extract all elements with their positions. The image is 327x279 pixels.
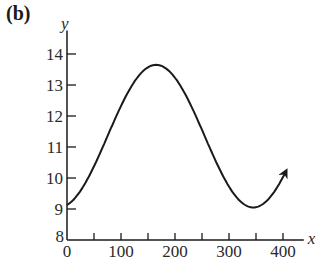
line-chart: 0100200300400891011121314 x y bbox=[0, 0, 327, 279]
axes bbox=[67, 31, 304, 241]
y-tick-label: 9 bbox=[55, 200, 64, 219]
data-curve bbox=[67, 65, 286, 208]
x-tick-label: 0 bbox=[63, 242, 72, 261]
x-axis-label: x bbox=[307, 229, 316, 248]
x-tick-label: 200 bbox=[162, 242, 188, 261]
y-axis-label: y bbox=[59, 14, 69, 33]
y-tick-label: 12 bbox=[46, 107, 63, 126]
y-tick-label: 11 bbox=[47, 138, 63, 157]
x-tick-label: 300 bbox=[216, 242, 242, 261]
x-tick-label: 400 bbox=[270, 242, 296, 261]
y-tick-label: 13 bbox=[46, 76, 63, 95]
y-tick-label: 14 bbox=[46, 45, 64, 64]
y-tick-label: 8 bbox=[56, 227, 65, 246]
ticks bbox=[67, 54, 283, 240]
y-tick-label: 10 bbox=[46, 169, 63, 188]
tick-labels: 0100200300400891011121314 bbox=[46, 45, 296, 261]
x-tick-label: 100 bbox=[108, 242, 134, 261]
